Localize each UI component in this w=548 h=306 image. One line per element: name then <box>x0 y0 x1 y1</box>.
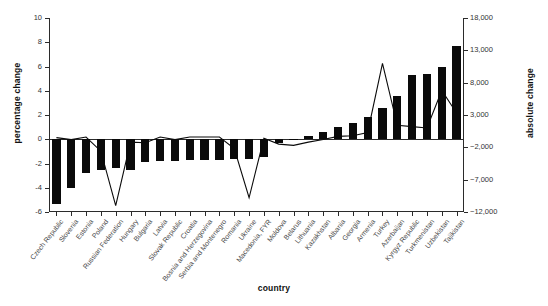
x-tick <box>56 212 57 216</box>
y-tick-label-right: 3,000 <box>470 111 489 119</box>
chart-root: 1086420-2-4-6 18,00013,0008,0003,000−2,0… <box>0 0 548 306</box>
y-tick-right <box>464 115 468 116</box>
y-axis-right-title: absolute change <box>525 43 535 163</box>
y-tick-right <box>464 18 468 19</box>
y-tick-label-right: −2,000 <box>470 143 493 151</box>
y-tick-label-right: 13,000 <box>470 46 493 54</box>
y-tick-label-right: −7,000 <box>470 176 493 184</box>
y-axis-left-title: percentage change <box>12 43 22 163</box>
y-tick-label-left: -4 <box>12 184 42 192</box>
x-axis-title: country <box>0 283 548 293</box>
y-tick-label-left: -6 <box>12 208 42 216</box>
y-tick-right <box>464 83 468 84</box>
y-tick-right <box>464 147 468 148</box>
y-tick-label-left: 10 <box>12 14 42 22</box>
y-tick-right <box>464 180 468 181</box>
y-tick-right <box>464 50 468 51</box>
y-tick-label-right: 8,000 <box>470 79 489 87</box>
y-tick-left <box>45 212 49 213</box>
y-tick-label-right: 18,000 <box>470 14 493 22</box>
